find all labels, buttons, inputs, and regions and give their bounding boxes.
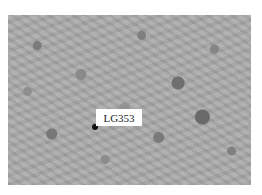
micrograph-image bbox=[8, 15, 251, 185]
sample-label: LG353 bbox=[96, 109, 142, 126]
